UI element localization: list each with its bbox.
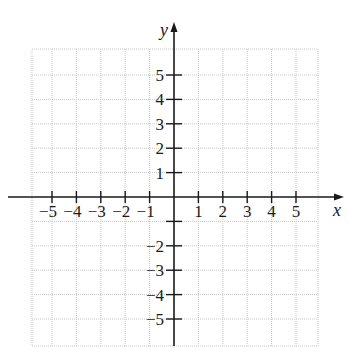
coordinate-plane: x y −5−4−3−2−11234554321−2−3−4−5 xyxy=(0,0,356,357)
x-tick-label: 5 xyxy=(292,202,301,221)
y-axis-label: y xyxy=(158,20,168,40)
x-tick-label: 1 xyxy=(194,202,203,221)
x-tick-label: −1 xyxy=(137,202,155,221)
x-tick-label: −4 xyxy=(63,202,82,221)
x-tick-label: −2 xyxy=(112,202,130,221)
y-tick-label: 2 xyxy=(156,139,165,158)
x-tick-label: 4 xyxy=(267,202,276,221)
x-tick-label: −5 xyxy=(39,202,57,221)
y-tick-label: 4 xyxy=(156,90,165,109)
axes: x y xyxy=(8,20,344,346)
y-tick-label: −5 xyxy=(146,310,164,329)
x-tick-label: 3 xyxy=(243,202,252,221)
x-tick-label: 2 xyxy=(219,202,228,221)
y-tick-label: −4 xyxy=(146,286,165,305)
y-tick-label: 1 xyxy=(156,164,165,183)
x-axis-label: x xyxy=(332,200,341,220)
y-tick-label: −2 xyxy=(146,237,164,256)
y-tick-label: 3 xyxy=(156,115,165,134)
y-axis-arrow-icon xyxy=(171,22,178,32)
y-tick-label: −3 xyxy=(146,261,164,280)
y-tick-label: 5 xyxy=(156,66,165,85)
x-tick-label: −3 xyxy=(88,202,106,221)
